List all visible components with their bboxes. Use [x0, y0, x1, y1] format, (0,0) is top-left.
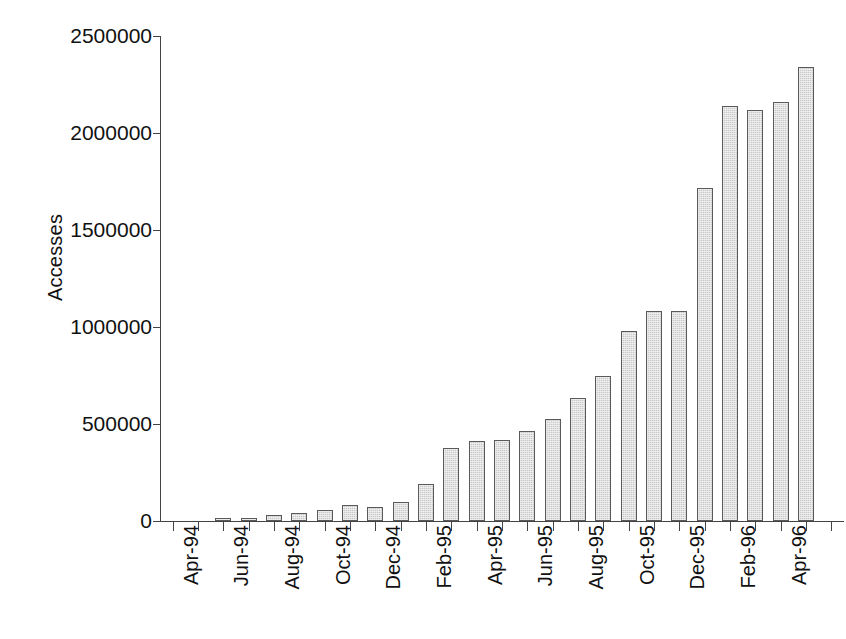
bar: [595, 376, 611, 521]
x-axis-tick-label: Feb-95: [434, 525, 454, 635]
plot-area: [160, 36, 844, 521]
bar: [393, 502, 409, 521]
x-axis-tick-label: Apr-94: [181, 525, 201, 635]
x-axis-tick-labels: Apr-94Jun-94Aug-94Oct-94Dec-94Feb-95Apr-…: [160, 530, 844, 639]
bar: [443, 448, 459, 521]
bar: [342, 505, 358, 521]
x-axis-tick-label: Oct-95: [637, 525, 657, 635]
y-axis-tick-label: 500000: [2, 413, 152, 434]
bar: [621, 331, 637, 521]
x-axis-tick-label: Dec-95: [687, 525, 707, 635]
bar: [291, 513, 307, 521]
bar: [646, 311, 662, 521]
x-axis-tick-label: Aug-95: [586, 525, 606, 635]
x-axis-tick-label: Aug-94: [282, 525, 302, 635]
bar: [545, 419, 561, 521]
bar: [722, 106, 738, 521]
x-axis-tick-label: Apr-95: [485, 525, 505, 635]
bar: [773, 102, 789, 521]
bar: [747, 110, 763, 521]
bar: [241, 518, 257, 521]
bar: [570, 398, 586, 521]
bar: [469, 441, 485, 521]
x-axis-tick-label: Dec-94: [383, 525, 403, 635]
y-axis-tick-label: 2000000: [2, 122, 152, 143]
bar: [798, 67, 814, 521]
bar: [697, 188, 713, 521]
bar: [266, 515, 282, 521]
bar: [519, 431, 535, 521]
bar: [671, 311, 687, 521]
bar: [494, 440, 510, 521]
bar: [367, 507, 383, 521]
x-axis-tick-label: Jun-94: [231, 525, 251, 635]
x-axis-tick-label: Apr-96: [789, 525, 809, 635]
x-axis-tick-label: Feb-96: [738, 525, 758, 635]
bar-chart: Accesses 0500000100000015000002000000250…: [0, 0, 846, 639]
y-axis-tick-label: 2500000: [2, 25, 152, 46]
bar: [418, 484, 434, 521]
y-axis-tick-label: 1000000: [2, 316, 152, 337]
y-axis-tick-mark: [153, 521, 161, 522]
x-axis-tick-label: Jun-95: [535, 525, 555, 635]
bar: [215, 518, 231, 521]
y-axis-tick-label: 0: [2, 510, 152, 531]
bars-layer: [160, 36, 844, 521]
y-axis-tick-labels: 05000001000000150000020000002500000: [0, 0, 152, 639]
y-axis-tick-label: 1500000: [2, 219, 152, 240]
bar: [317, 510, 333, 521]
x-axis-tick-label: Oct-94: [333, 525, 353, 635]
